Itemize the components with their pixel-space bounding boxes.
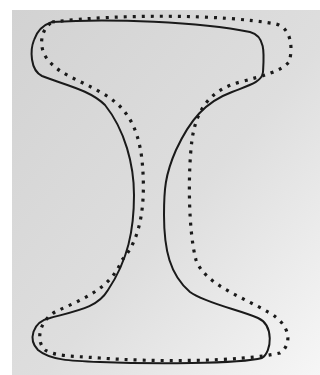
figure-canvas bbox=[0, 0, 320, 375]
background-panel bbox=[12, 10, 320, 375]
